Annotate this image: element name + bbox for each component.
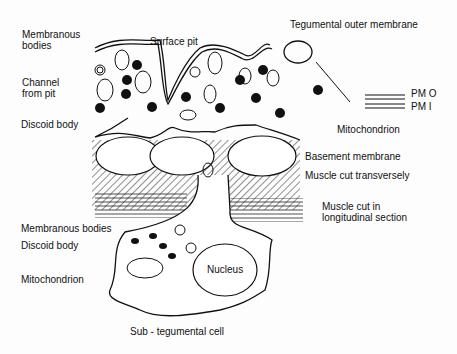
label-surface-pit: Surface pit [150,36,198,47]
label-membranous-bodies-top: Membranous bodies [22,29,80,51]
tegument-diagram: Membranous bodies Surface pit Tegumental… [0,0,457,354]
label-muscle-cut-transversely: Muscle cut transversely [305,170,409,181]
label-discoid-body-top: Discoid body [21,119,78,130]
label-muscle-cut-longitudinal: Muscle cut in longitudinal section [322,201,407,223]
label-pmi: PM I [411,101,432,112]
label-basement-membrane: Basement membrane [305,151,401,162]
label-sub-tegumental-cell: Sub - tegumental cell [130,326,224,337]
label-channel-from-pit: Channel from pit [22,77,59,99]
label-nucleus: Nucleus [207,264,243,275]
label-mitochondrion-top: Mitochondrion [337,124,400,135]
label-mitochondrion-bottom: Mitochondrion [21,274,84,285]
label-pmo: PM O [411,88,437,99]
label-membranous-bodies-bottom: Membranous bodies [21,223,112,234]
label-tegumental-outer-membrane: Tegumental outer membrane [290,19,418,30]
label-discoid-body-bottom: Discoid body [21,240,78,251]
